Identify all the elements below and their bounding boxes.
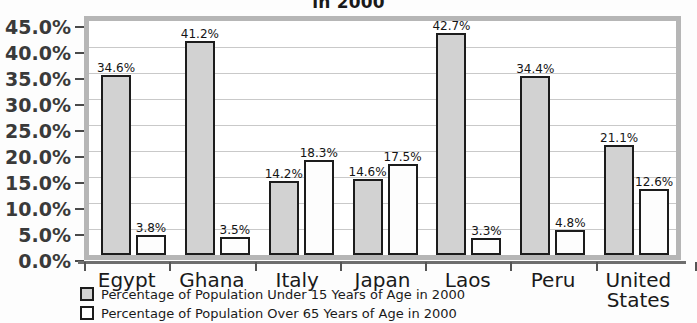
- bar-value-label: 17.5%: [384, 150, 422, 164]
- y-axis-tick-label: 25.0%: [5, 124, 71, 138]
- y-axis-tick: 30.0%: [5, 98, 84, 112]
- bar-under15[interactable]: 14.2%: [269, 181, 299, 255]
- y-axis-tick-mark: [75, 130, 84, 132]
- bar-group: 41.2%3.5%: [173, 21, 257, 255]
- bar-over65[interactable]: 4.8%: [555, 230, 585, 255]
- chart-title: in 2000: [0, 0, 697, 11]
- bar-value-label: 21.1%: [600, 131, 638, 145]
- bar-under15[interactable]: 34.4%: [520, 76, 550, 255]
- bar-over65[interactable]: 3.8%: [136, 235, 166, 255]
- bar-value-label: 3.8%: [136, 221, 167, 235]
- y-axis-tick: 15.0%: [5, 176, 84, 190]
- bar-value-label: 34.6%: [97, 61, 135, 75]
- legend-label: Percentage of Population Over 65 Years o…: [101, 306, 457, 321]
- legend-item[interactable]: Percentage of Population Under 15 Years …: [80, 285, 640, 303]
- y-axis-tick-label: 20.0%: [5, 150, 71, 164]
- y-axis-tick-mark: [75, 78, 84, 80]
- chart-legend: Percentage of Population Under 15 Years …: [80, 285, 640, 323]
- y-axis-tick: 20.0%: [5, 150, 84, 164]
- bar-under15[interactable]: 34.6%: [101, 75, 131, 255]
- y-axis-tick: 5.0%: [18, 228, 84, 242]
- bar-value-label: 3.3%: [471, 224, 502, 238]
- bar-group: 21.1%12.6%: [592, 21, 676, 255]
- bar-under15[interactable]: 21.1%: [604, 145, 634, 255]
- legend-label: Percentage of Population Under 15 Years …: [101, 287, 465, 302]
- chart-page: in 2000 45.0%40.0%35.0%30.0%25.0%20.0%15…: [0, 0, 697, 323]
- y-axis: 45.0%40.0%35.0%30.0%25.0%20.0%15.0%10.0%…: [0, 22, 84, 254]
- plot-inner: 34.6%3.8%41.2%3.5%14.2%18.3%14.6%17.5%42…: [89, 21, 676, 255]
- y-axis-tick: 25.0%: [5, 124, 84, 138]
- bar-group: 34.6%3.8%: [89, 21, 173, 255]
- y-axis-tick-mark: [75, 208, 84, 210]
- bar-value-label: 41.2%: [181, 27, 219, 41]
- y-axis-tick-label: 45.0%: [5, 20, 71, 34]
- y-axis-tick-label: 35.0%: [5, 72, 71, 86]
- y-axis-tick: 45.0%: [5, 20, 84, 34]
- legend-swatch-under15: [80, 287, 94, 301]
- bar-over65[interactable]: 12.6%: [639, 189, 669, 255]
- bar-under15[interactable]: 42.7%: [436, 33, 466, 255]
- legend-swatch-over65: [80, 306, 94, 320]
- y-axis-tick-mark: [75, 52, 84, 54]
- bar-groups: 34.6%3.8%41.2%3.5%14.2%18.3%14.6%17.5%42…: [89, 21, 676, 255]
- bar-value-label: 14.6%: [349, 165, 387, 179]
- bar-group: 42.7%3.3%: [424, 21, 508, 255]
- bar-over65[interactable]: 3.3%: [471, 238, 501, 255]
- y-axis-tick-label: 40.0%: [5, 46, 71, 60]
- y-axis-tick-label: 30.0%: [5, 98, 71, 112]
- bar-value-label: 34.4%: [516, 62, 554, 76]
- bar-value-label: 4.8%: [555, 216, 586, 230]
- bar-value-label: 3.5%: [220, 223, 251, 237]
- y-axis-tick-mark: [75, 234, 84, 236]
- plot-area: 34.6%3.8%41.2%3.5%14.2%18.3%14.6%17.5%42…: [84, 16, 681, 260]
- y-axis-tick: 40.0%: [5, 46, 84, 60]
- y-axis-tick-label: 10.0%: [5, 202, 71, 216]
- bar-over65[interactable]: 18.3%: [304, 160, 334, 255]
- bar-value-label: 18.3%: [300, 146, 338, 160]
- y-axis-tick-mark: [75, 156, 84, 158]
- y-axis-tick-label: 5.0%: [18, 228, 71, 242]
- bar-value-label: 12.6%: [635, 175, 673, 189]
- y-axis-tick-label: 15.0%: [5, 176, 71, 190]
- y-axis-tick-label: 0.0%: [18, 254, 71, 268]
- legend-item[interactable]: Percentage of Population Over 65 Years o…: [80, 304, 640, 322]
- y-axis-tick: 0.0%: [18, 254, 84, 268]
- bar-value-label: 42.7%: [432, 19, 470, 33]
- y-axis-tick-mark: [75, 182, 84, 184]
- bar-group: 14.2%18.3%: [257, 21, 341, 255]
- bar-under15[interactable]: 41.2%: [185, 41, 215, 255]
- y-axis-tick-mark: [75, 26, 84, 28]
- y-axis-tick: 35.0%: [5, 72, 84, 86]
- y-axis-tick-mark: [75, 104, 84, 106]
- bar-under15[interactable]: 14.6%: [353, 179, 383, 255]
- bar-value-label: 14.2%: [265, 167, 303, 181]
- bar-over65[interactable]: 17.5%: [388, 164, 418, 255]
- y-axis-tick: 10.0%: [5, 202, 84, 216]
- bar-group: 14.6%17.5%: [341, 21, 425, 255]
- bar-group: 34.4%4.8%: [508, 21, 592, 255]
- bar-over65[interactable]: 3.5%: [220, 237, 250, 255]
